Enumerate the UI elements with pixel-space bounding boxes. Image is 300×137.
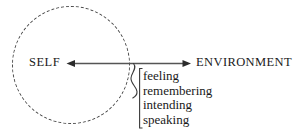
arrowhead-right-icon bbox=[183, 60, 192, 67]
process-item-intending: intending bbox=[143, 98, 212, 113]
diagram-canvas: SELF ENVIRONMENT feeling remembering int… bbox=[0, 0, 300, 137]
arrowhead-left-icon bbox=[67, 60, 76, 67]
environment-label: ENVIRONMENT bbox=[196, 55, 292, 70]
process-item-remembering: remembering bbox=[143, 84, 212, 99]
process-item-speaking: speaking bbox=[143, 113, 212, 128]
process-list: feeling remembering intending speaking bbox=[143, 69, 212, 127]
process-item-feeling: feeling bbox=[143, 69, 212, 84]
curly-brace-icon bbox=[131, 64, 137, 99]
self-label: SELF bbox=[29, 55, 60, 70]
